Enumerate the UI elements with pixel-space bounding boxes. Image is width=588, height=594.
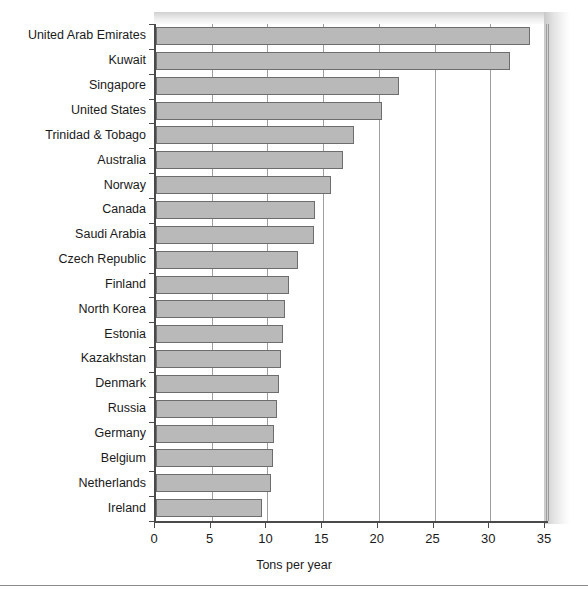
x-tick xyxy=(488,521,489,528)
x-tick xyxy=(210,521,211,528)
x-axis-tick-label: 25 xyxy=(425,531,439,546)
x-axis-tick-label: 0 xyxy=(150,531,157,546)
x-axis-tick-label: 30 xyxy=(481,531,495,546)
y-axis-labels: United Arab EmiratesKuwaitSingaporeUnite… xyxy=(0,24,588,521)
footer-rule xyxy=(0,585,588,586)
y-axis-label: Norway xyxy=(0,179,146,191)
x-tick xyxy=(544,521,545,528)
y-axis-label: United Arab Emirates xyxy=(0,29,146,41)
y-axis-label: Kuwait xyxy=(0,54,146,66)
y-axis-label: Finland xyxy=(0,278,146,290)
y-axis-label: Kazakhstan xyxy=(0,352,146,364)
x-tick xyxy=(265,521,266,528)
y-axis-label: Czech Republic xyxy=(0,253,146,265)
x-axis-tick-label: 15 xyxy=(314,531,328,546)
y-axis-label: Australia xyxy=(0,154,146,166)
x-axis-tick-label: 20 xyxy=(370,531,384,546)
y-axis-label: United States xyxy=(0,104,146,116)
y-axis-label: Germany xyxy=(0,427,146,439)
y-axis-label: Ireland xyxy=(0,502,146,514)
x-tick xyxy=(377,521,378,528)
y-axis-label: Estonia xyxy=(0,328,146,340)
y-axis-label: Russia xyxy=(0,402,146,414)
x-axis-tick-label: 5 xyxy=(206,531,213,546)
y-axis-label: North Korea xyxy=(0,303,146,315)
y-axis-label: Trinidad & Tobago xyxy=(0,129,146,141)
y-axis-label: Singapore xyxy=(0,79,146,91)
y-axis-label: Canada xyxy=(0,203,146,215)
y-axis-label: Saudi Arabia xyxy=(0,228,146,240)
x-tick xyxy=(433,521,434,528)
y-axis-label: Netherlands xyxy=(0,477,146,489)
y-axis-label: Belgium xyxy=(0,452,146,464)
y-axis-label: Denmark xyxy=(0,377,146,389)
x-axis-tick-label: 10 xyxy=(258,531,272,546)
x-tick xyxy=(321,521,322,528)
x-axis-title: Tons per year xyxy=(0,558,588,572)
x-tick xyxy=(154,521,155,528)
chart-figure: United Arab EmiratesKuwaitSingaporeUnite… xyxy=(0,0,588,594)
x-axis-tick-label: 35 xyxy=(537,531,551,546)
